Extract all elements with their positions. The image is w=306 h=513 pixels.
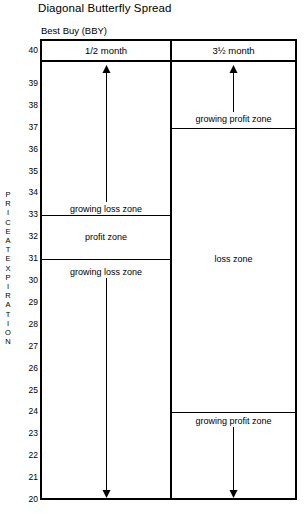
column-header-row: 1/2 month 3½ month [42,41,295,62]
y-axis-title-char: E [2,254,14,263]
left-zone-divider [42,215,170,216]
y-axis-tick-label: 26 [14,363,38,373]
right-zone-divider [172,128,295,129]
y-axis-title-char: A [2,236,14,245]
y-axis-tick-label: 38 [14,100,38,110]
y-axis-tick-label: 29 [14,297,38,307]
y-axis-title-char: E [2,227,14,236]
right-zone-arrow-down [229,427,238,498]
diagonal-butterfly-chart: 1/2 month 3½ month growing loss zoneprof… [40,39,297,500]
y-axis-tick-label: 20 [14,494,38,504]
left-zone-divider [42,259,170,260]
y-axis-tick-label: 25 [14,385,38,395]
arrow-shaft [233,71,234,112]
y-axis-title-char: R [2,199,14,208]
left-zone-label: growing loss zone [42,204,170,214]
chart-subtitle: Best Buy (BBY) [41,25,107,36]
y-axis-title-char: I [2,282,14,291]
y-axis-tick-label: 36 [14,144,38,154]
y-axis-tick-label: 34 [14,187,38,197]
y-axis-title-char: R [2,291,14,300]
left-zone-label: growing loss zone [42,267,170,277]
y-axis-tick-label: 35 [14,166,38,176]
y-axis-tick-label: 33 [14,209,38,219]
arrow-shaft [106,278,107,492]
column-body-right: growing profit zoneloss zonegrowing prof… [172,62,295,498]
y-axis-tick-label: 21 [14,472,38,482]
y-axis-tick-labels: 4039383736353433323130292827262524232221… [14,0,38,513]
y-axis-tick-label: 24 [14,406,38,416]
y-axis-tick-label: 30 [14,275,38,285]
y-axis-title-char: C [2,218,14,227]
y-axis-tick-label: 32 [14,231,38,241]
left-zone-label: profit zone [42,232,170,242]
right-zone-divider [172,412,295,413]
y-axis-title: PRICEATEXPIRATION [2,190,14,346]
left-zone-arrow-up [102,65,111,202]
y-axis-tick-label: 22 [14,450,38,460]
right-zone-label: growing profit zone [172,114,295,124]
y-axis-title-char: I [2,208,14,217]
right-zone-label: growing profit zone [172,416,295,426]
y-axis-tick-label: 37 [14,122,38,132]
y-axis-title-char: P [2,190,14,199]
y-axis-title-char: X [2,264,14,273]
column-header-left: 1/2 month [42,41,172,60]
y-axis-tick-label: 28 [14,319,38,329]
y-axis-title-char: A [2,300,14,309]
y-axis-title-char: P [2,273,14,282]
page-title: Diagonal Butterfly Spread [38,2,172,14]
y-axis-title-char: I [2,319,14,328]
column-header-right: 3½ month [172,41,295,60]
y-axis-title-char: T [2,245,14,254]
y-axis-tick-label: 23 [14,428,38,438]
right-zone-arrow-up [229,65,238,112]
y-axis-title-char: T [2,310,14,319]
y-axis-tick-label: 39 [14,78,38,88]
y-axis-tick-label: 31 [14,253,38,263]
y-axis-title-char: N [2,337,14,346]
left-zone-arrow-down [102,278,111,498]
arrow-shaft [106,71,107,202]
y-axis-title-char: O [2,328,14,337]
y-axis-tick-label: 27 [14,341,38,351]
column-body-left: growing loss zoneprofit zonegrowing loss… [42,62,172,498]
right-zone-label: loss zone [172,254,295,264]
arrow-shaft [233,427,234,492]
y-axis-tick-label: 40 [14,45,38,55]
